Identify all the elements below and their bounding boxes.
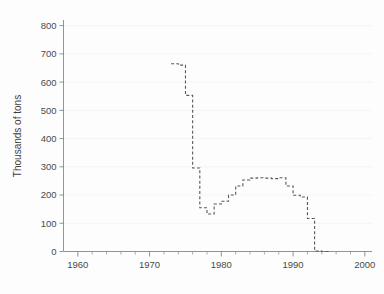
- y-tick-label: 400: [41, 133, 57, 144]
- y-tick-label: 800: [41, 20, 57, 31]
- chart-canvas: 0100200300400500600700800 19601970198019…: [0, 0, 384, 294]
- x-tick-label: 1970: [139, 259, 160, 270]
- x-tick-label: 1980: [211, 259, 232, 270]
- x-tick-label: 2000: [354, 259, 375, 270]
- y-tick-label: 700: [41, 48, 57, 59]
- y-tick-label: 100: [41, 218, 57, 229]
- gridlines: [64, 26, 373, 252]
- y-tick-label: 200: [41, 189, 57, 200]
- y-tick-label: 500: [41, 105, 57, 116]
- y-axis: 0100200300400500600700800: [41, 20, 64, 257]
- chart-figure: 0100200300400500600700800 19601970198019…: [0, 0, 384, 294]
- y-axis-title: Thousands of tons: [12, 95, 23, 177]
- y-tick-label: 600: [41, 77, 57, 88]
- x-tick-label: 1960: [67, 259, 88, 270]
- y-axis-tick-labels: 0100200300400500600700800: [41, 20, 57, 257]
- x-tick-label: 1990: [283, 259, 304, 270]
- y-tick-label: 0: [51, 246, 56, 257]
- x-axis: 19601970198019902000: [64, 252, 376, 270]
- y-tick-label: 300: [41, 161, 57, 172]
- y-axis-ticks: [60, 26, 64, 252]
- x-axis-tick-labels: 19601970198019902000: [67, 259, 375, 270]
